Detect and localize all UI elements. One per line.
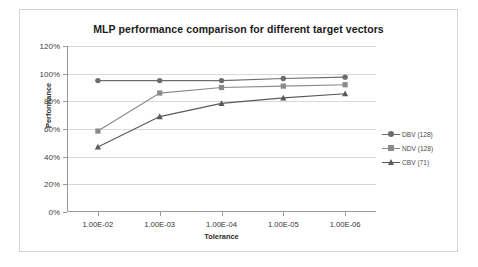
x-tick-label: 1.00E-02 [82,220,113,229]
legend-marker-icon [382,157,400,167]
chart-legend: DBV (128)NDV (128)CBV (71) [382,127,472,169]
y-tick-label: 0% [48,208,60,217]
y-tick-label: 60% [44,125,60,134]
legend-label: DBV (128) [402,131,433,138]
y-tick-label: 20% [44,180,60,189]
series-layer [67,46,376,212]
x-tick-mark [160,212,161,216]
series-cbv-71- [95,91,348,150]
y-tick-label: 40% [44,152,60,161]
legend-marker-icon [382,129,400,139]
legend-label: CBV (71) [402,159,429,166]
chart-frame: MLP performance comparison for different… [19,9,458,252]
data-point-marker [95,144,101,150]
series-ndv-128- [95,82,347,134]
x-tick-label: 1.00E-05 [268,220,299,229]
y-tick-label: 120% [40,42,60,51]
x-tick-label: 1.00E-04 [206,220,237,229]
x-axis-title: Tolerance [67,232,376,241]
x-tick-mark [222,212,223,216]
x-tick-mark [345,212,346,216]
data-point-marker [281,84,286,89]
y-tick-mark [63,212,67,213]
y-tick-label: 80% [44,97,60,106]
series-line [98,85,345,131]
data-point-marker [343,82,348,87]
data-point-marker [342,74,347,79]
x-tick-mark [98,212,99,216]
data-point-marker [219,85,224,90]
legend-label: NDV (128) [402,145,433,152]
legend-item[interactable]: DBV (128) [382,127,472,141]
x-tick-mark [283,212,284,216]
legend-marker-icon [382,143,400,153]
plot-area: 0%20%40%60%80%100%120% 1.00E-021.00E-031… [67,46,376,212]
data-point-marker [95,128,100,133]
legend-item[interactable]: NDV (128) [382,141,472,155]
data-point-marker [281,76,286,81]
chart-title: MLP performance comparison for different… [20,23,457,35]
data-point-marker [219,78,224,83]
data-point-marker [157,78,162,83]
x-tick-label: 1.00E-03 [144,220,175,229]
legend-item[interactable]: CBV (71) [382,155,472,169]
series-dbv-128- [95,74,348,83]
y-tick-label: 100% [40,69,60,78]
x-tick-label: 1.00E-06 [330,220,361,229]
data-point-marker [95,78,100,83]
data-point-marker [157,90,162,95]
